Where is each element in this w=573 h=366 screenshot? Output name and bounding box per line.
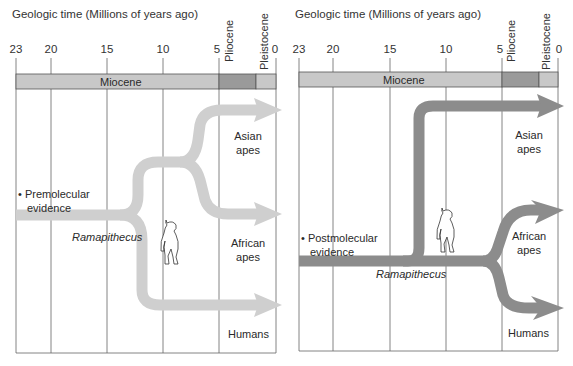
premolecular-diagram [0,0,290,366]
evidence-label: • Premolecular evidence [18,187,90,215]
african-apes-label: African apes [226,236,270,264]
miocene-label: Miocene [100,75,140,89]
postmolecular-panel: Geologic time (Millions of years ago) 23… [283,0,573,366]
pleistocene-label: Pleistocene [258,13,270,70]
pleistocene-band [539,72,558,87]
asian-apes-label: Asian apes [228,129,268,157]
premolecular-panel: Geologic time (Millions of years ago) 23… [0,0,290,366]
pliocene-label: Pliocene [223,20,235,62]
pleistocene-band [256,74,276,89]
asian-apes-label: Asian apes [509,128,549,156]
pliocene-band [219,74,256,89]
ramapithecus-figure-icon [161,220,178,264]
humans-label: Humans [508,326,549,340]
miocene-label: Miocene [383,73,423,87]
pliocene-band [502,72,539,87]
humans-label: Humans [228,327,269,341]
ramapithecus-figure-icon [437,208,454,252]
ramapithecus-label: Ramapithecus [72,230,142,244]
postmolecular-diagram [283,0,573,366]
ramapithecus-label: Ramapithecus [376,267,446,281]
evidence-label: • Postmolecular evidence [301,231,378,259]
african-apes-label: African apes [507,229,551,257]
pleistocene-label: Pleistocene [540,13,552,70]
pliocene-label: Pliocene [505,20,517,62]
